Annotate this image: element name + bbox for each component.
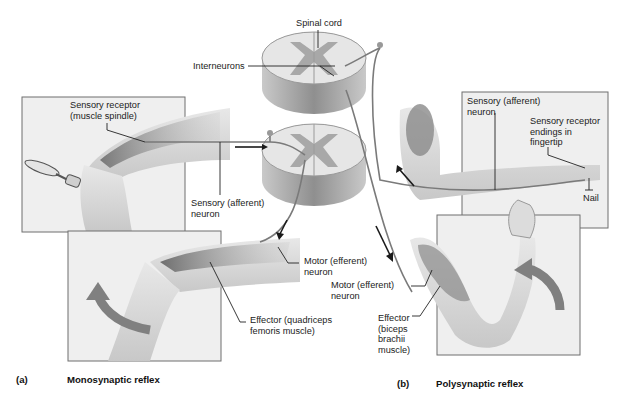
caption-a-title: Monosynaptic reflex <box>67 374 160 385</box>
spinal-cord-bottom <box>262 124 366 206</box>
panel-a-knee-extension <box>68 231 300 361</box>
reflex-diagram-canvas <box>0 0 628 407</box>
label-sensory-receptor-spindle: Sensory receptor (muscle spindle) <box>70 100 140 121</box>
label-sensory-receptor-fingertip: Sensory receptor endings in fingertip <box>530 116 600 148</box>
label-effector-biceps: Effector (biceps brachii muscle) <box>378 313 410 355</box>
label-nail: Nail <box>583 193 599 204</box>
panel-b-arm-withdrawal <box>410 200 580 355</box>
label-sensory-afferent-a: Sensory (afferent) neuron <box>191 198 264 219</box>
label-interneurons: Interneurons <box>193 61 245 72</box>
caption-b-letter: (b) <box>397 378 409 389</box>
label-spinal-cord: Spinal cord <box>296 18 342 29</box>
label-effector-quadriceps: Effector (quadriceps femoris muscle) <box>250 315 332 336</box>
label-motor-efferent-a: Motor (efferent) neuron <box>304 256 367 277</box>
caption-b-title: Polysynaptic reflex <box>436 378 523 389</box>
label-sensory-afferent-b: Sensory (afferent) neuron <box>467 96 540 117</box>
label-motor-efferent-b: Motor (efferent) neuron <box>331 280 394 301</box>
caption-a-letter: (a) <box>16 374 28 385</box>
